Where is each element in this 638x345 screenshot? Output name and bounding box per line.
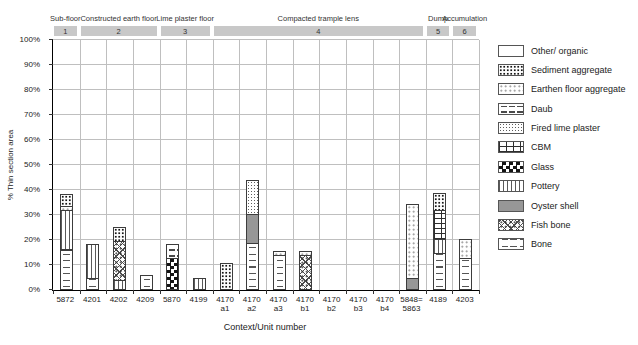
other-swatch-icon xyxy=(498,45,524,57)
gridline-vertical xyxy=(239,40,240,290)
bar-5848=-5863 xyxy=(406,204,419,291)
legend-item-firedlime: Fired lime plaster xyxy=(498,122,626,135)
y-tick-label: 90% xyxy=(24,60,40,69)
bar-4170-b1 xyxy=(299,251,312,290)
segment-bone xyxy=(60,250,73,290)
segment-fishbone xyxy=(299,255,312,290)
phase-band-6: 6 xyxy=(453,26,476,36)
legend-label: CBM xyxy=(531,142,551,152)
y-axis-tick-mark xyxy=(49,114,53,115)
legend-item-oyster: Oyster shell xyxy=(498,199,626,212)
bar-4170-a2 xyxy=(246,180,259,291)
y-tick-label: 30% xyxy=(24,210,40,219)
legend-item-pottery: Pottery xyxy=(498,180,626,193)
bar-5870 xyxy=(166,244,179,291)
pottery-swatch-icon xyxy=(498,180,524,192)
segment-earthen xyxy=(459,239,472,259)
gridline-vertical xyxy=(186,40,187,290)
bar-4199 xyxy=(193,278,206,291)
gridline-vertical xyxy=(266,40,267,290)
legend-label: Earthen floor aggregate xyxy=(531,84,626,94)
x-axis-tick-mark xyxy=(319,290,320,294)
bar-4203 xyxy=(459,239,472,291)
segment-bone xyxy=(86,278,99,291)
segment-bone xyxy=(246,243,259,291)
gridline-vertical xyxy=(213,40,214,290)
x-axis-tick-mark xyxy=(160,290,161,294)
segment-pottery xyxy=(86,244,99,279)
y-tick-label: 0% xyxy=(28,285,40,294)
legend-item-other: Other/ organic xyxy=(498,44,626,57)
sediment-swatch-icon xyxy=(498,64,524,76)
segment-bone xyxy=(459,258,472,291)
gridline-vertical xyxy=(80,40,81,290)
segment-bone xyxy=(273,255,286,290)
x-axis-tick-mark xyxy=(106,290,107,294)
daub-swatch-icon xyxy=(498,103,524,115)
legend-item-cbm: CBM xyxy=(498,141,626,154)
x-axis-tick-mark xyxy=(293,290,294,294)
x-tick-label: 4203 xyxy=(445,295,485,304)
segment-pottery xyxy=(193,278,206,291)
legend-item-bone: Bone xyxy=(498,238,626,251)
earthen-swatch-icon xyxy=(498,83,524,95)
y-axis-tick-mark xyxy=(49,214,53,215)
bar-5872 xyxy=(60,194,73,290)
segment-glass xyxy=(166,258,179,291)
legend-label: Bone xyxy=(531,239,552,249)
y-tick-label: 70% xyxy=(24,110,40,119)
phase-label: Accumulation xyxy=(385,14,545,23)
segment-oyster xyxy=(406,278,419,291)
stacked-bar-chart-figure: 0%10%20%30%40%50%60%70%80%90%100% 587242… xyxy=(0,0,638,345)
phase-number: 4 xyxy=(316,27,320,36)
legend-label: Daub xyxy=(531,104,553,114)
y-tick-label: 80% xyxy=(24,85,40,94)
segment-oyster xyxy=(246,214,259,244)
phase-band-1: 1 xyxy=(54,26,77,36)
legend-item-daub: Daub xyxy=(498,102,626,115)
gridline-vertical xyxy=(479,40,480,290)
y-axis-title: % Thin section area xyxy=(6,130,15,201)
segment-cbm xyxy=(433,210,446,240)
x-axis-tick-mark xyxy=(80,290,81,294)
legend: Other/ organicSediment aggregateEarthen … xyxy=(498,44,626,251)
gridline-vertical xyxy=(319,40,320,290)
x-axis-title: Context/Unit number xyxy=(52,322,478,332)
gridline-vertical xyxy=(346,40,347,290)
firedlime-swatch-icon xyxy=(498,122,524,134)
plot-area xyxy=(52,40,479,291)
segment-bone xyxy=(140,275,153,290)
y-tick-label: 50% xyxy=(24,160,40,169)
y-tick-label: 20% xyxy=(24,235,40,244)
phase-number: 1 xyxy=(63,27,67,36)
segment-bone xyxy=(433,253,446,291)
y-axis-tick-mark xyxy=(49,39,53,40)
legend-label: Sediment aggregate xyxy=(531,65,612,75)
segment-sediment xyxy=(433,193,446,211)
legend-label: Fired lime plaster xyxy=(531,123,600,133)
fishbone-swatch-icon xyxy=(498,219,524,231)
x-axis-tick-labels: 5872420142024209587041994170a14170a24170… xyxy=(52,295,478,319)
segment-daub xyxy=(166,244,179,259)
legend-label: Pottery xyxy=(531,181,560,191)
x-axis-tick-mark xyxy=(213,290,214,294)
bone-swatch-icon xyxy=(498,238,524,250)
gridline-vertical xyxy=(160,40,161,290)
segment-earthen xyxy=(406,204,419,279)
oyster-swatch-icon xyxy=(498,200,524,212)
bar-4209 xyxy=(140,275,153,290)
legend-label: Glass xyxy=(531,162,554,172)
cbm-swatch-icon xyxy=(498,141,524,153)
x-axis-tick-mark xyxy=(479,290,480,294)
y-axis-tick-mark xyxy=(49,239,53,240)
y-axis-tick-mark xyxy=(49,289,53,290)
x-axis-tick-mark xyxy=(239,290,240,294)
x-axis-tick-mark xyxy=(133,290,134,294)
gridline-vertical xyxy=(133,40,134,290)
x-axis-tick-mark xyxy=(426,290,427,294)
phase-number: 6 xyxy=(463,27,467,36)
y-tick-label: 10% xyxy=(24,260,40,269)
x-axis-tick-mark xyxy=(399,290,400,294)
bar-4170-a3 xyxy=(273,251,286,290)
gridline-vertical xyxy=(373,40,374,290)
